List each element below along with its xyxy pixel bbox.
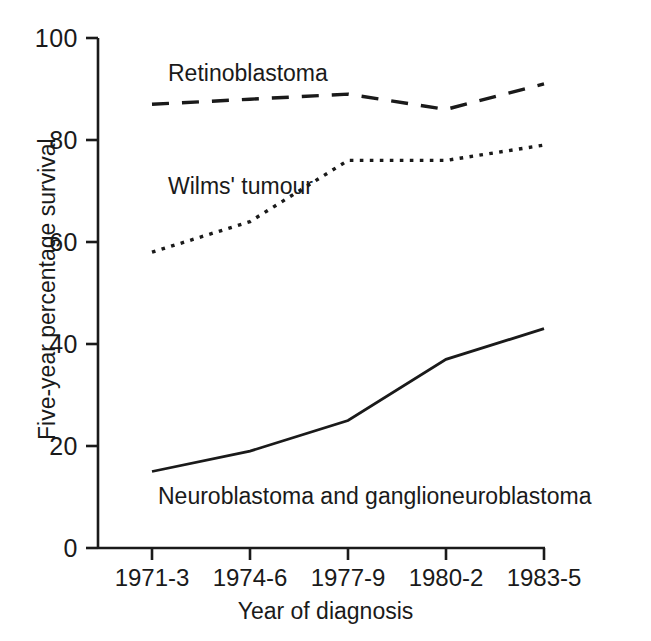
y-tick-label-0: 0	[16, 536, 78, 561]
x-axis-title: Year of diagnosis	[0, 600, 651, 623]
chart-figure: 100 80 60 40 20 0 1971-3 1974-6 1977-9 1…	[0, 0, 651, 641]
series-label-retinoblastoma: Retinoblastoma	[168, 62, 328, 85]
line-chart-plot	[0, 0, 651, 641]
x-tick-label-1983-5: 1983-5	[484, 566, 604, 590]
series-label-neuroblastoma: Neuroblastoma and ganglioneuroblastoma	[158, 485, 591, 508]
series-line-neuroblastoma	[152, 329, 544, 472]
y-axis-title: Five-year percentage survival	[36, 138, 59, 440]
y-axis-ticks	[86, 38, 98, 548]
x-axis-ticks	[152, 548, 544, 560]
series-label-wilms-tumour: Wilms' tumour	[168, 175, 313, 198]
series-line-retinoblastoma	[152, 84, 544, 110]
y-tick-label-100: 100	[16, 26, 78, 51]
